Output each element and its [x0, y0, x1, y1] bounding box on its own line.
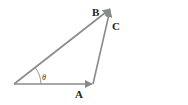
vector-a-label: A [75, 88, 83, 100]
vector-diagram: θ A B C [0, 0, 188, 105]
vector-c-label: C [112, 20, 120, 32]
vector-b-label: B [92, 6, 100, 18]
angle-theta-label: θ [42, 73, 46, 82]
angle-arc [35, 68, 41, 85]
